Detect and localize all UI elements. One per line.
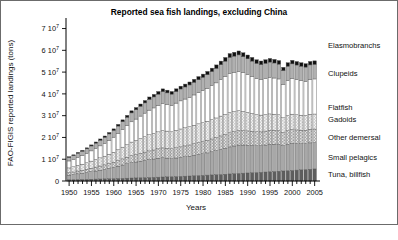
- bar-segment: [197, 77, 200, 80]
- bar-segment: [179, 89, 182, 101]
- bar-segment: [90, 151, 93, 161]
- bar-segment: [241, 145, 244, 173]
- bar-segment: [85, 169, 88, 172]
- bar-segment: [103, 143, 106, 156]
- bar-segment: [241, 73, 244, 112]
- bar-segment: [282, 171, 285, 181]
- bar-segment: [148, 151, 151, 160]
- bar-segment: [192, 155, 195, 175]
- bar-segment: [246, 173, 249, 181]
- bar-segment: [264, 145, 267, 172]
- bar-segment: [121, 130, 124, 148]
- bar-segment: [139, 139, 142, 154]
- bar-segment: [286, 171, 289, 181]
- bar-segment: [166, 131, 169, 148]
- bar-segment: [291, 79, 294, 115]
- bar-segment: [206, 175, 209, 181]
- bar-segment: [188, 85, 191, 97]
- bar-segment: [157, 132, 160, 149]
- bar-segment: [237, 71, 240, 110]
- bar-segment: [161, 89, 164, 92]
- bar-segment: [219, 149, 222, 174]
- bar-segment: [67, 173, 70, 175]
- bar-segment: [197, 80, 200, 93]
- bar-segment: [134, 162, 137, 178]
- x-tick-label: 1995: [262, 188, 278, 197]
- bar-segment: [85, 153, 88, 162]
- bar-segment: [85, 148, 88, 149]
- bar-segment: [125, 126, 128, 145]
- bar-segment: [300, 66, 303, 80]
- bar-segment: [170, 132, 173, 149]
- bar-segment: [170, 159, 173, 177]
- bar-segment: [130, 142, 133, 156]
- bar-segment: [94, 142, 97, 143]
- bar-segment: [201, 77, 204, 90]
- bar-segment: [157, 177, 160, 181]
- bar-segment: [237, 55, 240, 71]
- bar-segment: [170, 94, 173, 105]
- bar-segment: [206, 140, 209, 153]
- bar-segment: [179, 147, 182, 158]
- bar-segment: [121, 120, 124, 122]
- bar-segment: [277, 115, 280, 131]
- bar-segment: [188, 176, 191, 181]
- bar-segment: [183, 84, 186, 87]
- bar-segment: [313, 143, 316, 169]
- bar-segment: [175, 89, 178, 92]
- bar-segment: [125, 164, 128, 178]
- bar-segment: [188, 82, 191, 85]
- bar-segment: [277, 79, 280, 115]
- bar-segment: [90, 172, 93, 179]
- bar-segment: [139, 161, 142, 178]
- bar-segment: [224, 77, 227, 115]
- bar-segment: [295, 80, 298, 115]
- bar-segment: [210, 175, 213, 181]
- bar-segment: [313, 61, 316, 65]
- bar-segment: [210, 139, 213, 152]
- bar-segment: [201, 123, 204, 142]
- bar-segment: [295, 130, 298, 144]
- bar-segment: [273, 114, 276, 130]
- bar-segment: [90, 168, 93, 172]
- bar-segment: [108, 154, 111, 163]
- bar-segment: [277, 131, 280, 145]
- bar-segment: [304, 67, 307, 81]
- bar-segment: [264, 172, 267, 181]
- bar-segment: [224, 61, 227, 77]
- bar-segment: [291, 170, 294, 181]
- bar-segment: [286, 144, 289, 170]
- bar-segment: [277, 64, 280, 79]
- bar-segment: [139, 106, 142, 116]
- bar-segment: [206, 88, 209, 121]
- bar-segment: [219, 61, 222, 65]
- bar-segment: [228, 57, 231, 73]
- bar-segment: [233, 146, 236, 174]
- bar-segment: [215, 83, 218, 118]
- bar-segment: [237, 130, 240, 145]
- bar-segment: [116, 161, 119, 167]
- bar-segment: [143, 137, 146, 152]
- bar-segment: [116, 166, 119, 178]
- x-tick-label: 1985: [217, 188, 233, 197]
- bar-segment: [241, 111, 244, 130]
- bar-segment: [304, 144, 307, 170]
- bar-segment: [188, 127, 191, 145]
- bar-segment: [197, 93, 200, 124]
- bar-segment: [224, 148, 227, 174]
- bar-segment: [112, 152, 115, 162]
- bar-segment: [268, 130, 271, 144]
- y-tick-label: 6 107: [42, 45, 59, 55]
- bar-segment: [139, 116, 142, 138]
- bar-segment: [268, 62, 271, 77]
- bar-segment: [99, 146, 102, 158]
- bar-segment: [125, 157, 128, 164]
- bar-segment: [157, 105, 160, 131]
- bar-segment: [210, 68, 213, 71]
- bar-segment: [108, 164, 111, 169]
- bar-segment: [197, 176, 200, 181]
- bar-segment: [179, 101, 182, 129]
- bar-segment: [125, 117, 128, 125]
- bar-segment: [85, 173, 88, 180]
- bar-segment: [143, 101, 146, 103]
